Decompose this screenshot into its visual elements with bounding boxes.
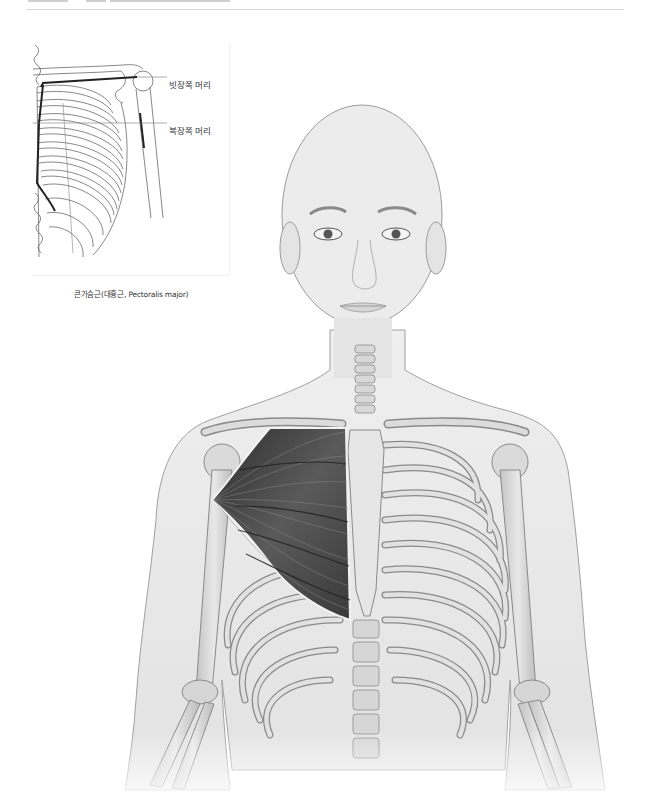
left-ear (280, 222, 300, 274)
right-ear (426, 222, 446, 274)
main-anatomy-figure (0, 0, 645, 807)
head (282, 105, 442, 325)
body-illustration (0, 0, 645, 807)
